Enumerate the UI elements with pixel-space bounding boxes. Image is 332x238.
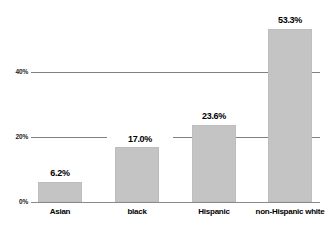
- y-axis-tick-label-0: 0%: [2, 199, 28, 206]
- bar-black[interactable]: [115, 147, 159, 202]
- bar-value-label-black: 17.0%: [107, 134, 173, 145]
- bar-non-hispanic-white[interactable]: [268, 29, 312, 202]
- plot-area: 40% 20% 0% 6.2% 17.0% 23.6% 53.3% Asian …: [0, 0, 332, 238]
- y-axis-tick-label-20: 20%: [2, 134, 28, 141]
- x-axis-category-label-non-hispanic-white: non-Hispanic white: [240, 208, 332, 216]
- x-axis-baseline: [31, 202, 320, 203]
- bar-hispanic[interactable]: [192, 125, 236, 202]
- bar-asian[interactable]: [38, 182, 82, 202]
- bar-value-label-hispanic: 23.6%: [184, 112, 244, 121]
- bar-value-label-asian: 6.2%: [30, 169, 90, 178]
- bar-value-label-non-hispanic-white: 53.3%: [260, 16, 320, 25]
- bar-chart: 40% 20% 0% 6.2% 17.0% 23.6% 53.3% Asian …: [0, 0, 332, 238]
- y-axis-tick-label-40: 40%: [2, 69, 28, 76]
- gridline-20-left: [31, 137, 111, 138]
